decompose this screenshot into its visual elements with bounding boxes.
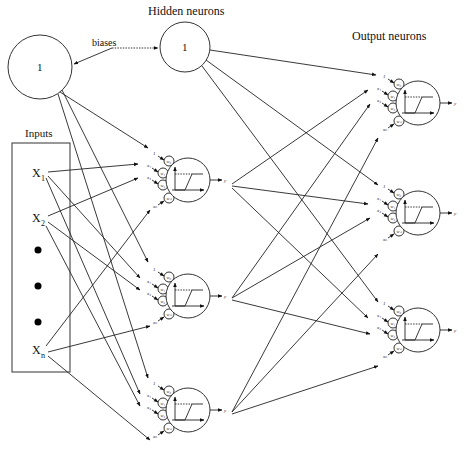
weight-label: w₀: [167, 275, 172, 280]
weight-label: w₀: [397, 309, 402, 314]
bias-arrow-left: [74, 48, 112, 64]
svg-text:X: X: [32, 166, 41, 180]
svg-text:X: X: [32, 211, 41, 225]
weight-label: w₂: [161, 299, 166, 304]
output-neuron-1: w₀1w₁x₁w₂x₂wₙxₙy: [376, 74, 457, 132]
neuron-input-label: x₁: [146, 163, 151, 168]
neuron-body: [166, 274, 210, 318]
neuron-input-label: x₁: [376, 196, 381, 201]
neuron-body: [396, 191, 440, 235]
weight-label: w₂: [391, 333, 396, 338]
svg-text:X: X: [32, 343, 41, 357]
svg-text:2: 2: [41, 219, 45, 228]
neuron-input-label: 1: [153, 381, 156, 386]
neuron-input-label: x₂: [376, 208, 381, 213]
output-neuron-2: w₀1w₁x₁w₂x₂wₙxₙy: [376, 184, 457, 242]
neuron-input-label: 1: [383, 301, 386, 306]
neuron-input-label: xₙ: [382, 127, 388, 132]
output-neuron-3: w₀1w₁x₁w₂x₂wₙxₙy: [376, 301, 457, 359]
weight-label: w₁: [161, 171, 166, 176]
neuron-input-label: xₙ: [152, 204, 158, 209]
output-neurons-title: Output neurons: [352, 29, 427, 43]
neuron-body: [396, 81, 440, 125]
weight-label: wₙ: [167, 312, 172, 317]
ellipsis-dot: [35, 319, 42, 326]
weight-label: w₂: [391, 216, 396, 221]
neuron-input-label: x₁: [146, 279, 151, 284]
weight-label: wₙ: [397, 346, 402, 351]
hidden-to-output-connections: [232, 90, 378, 414]
weight-label: w₀: [167, 159, 172, 164]
hidden-bias-value: 1: [182, 41, 188, 53]
neuron-input-label: 1: [383, 74, 386, 79]
neuron-body: [166, 158, 210, 202]
output-label: y: [453, 211, 457, 216]
weight-label: w₂: [391, 106, 396, 111]
neuron-input-label: xₙ: [382, 354, 388, 359]
neuron-input-label: xₙ: [152, 320, 158, 325]
ellipsis-dot: [35, 247, 42, 254]
weight-label: w₁: [161, 287, 166, 292]
neuron-body: [396, 308, 440, 352]
biases-label: biases: [92, 37, 117, 48]
weight-label: w₂: [161, 183, 166, 188]
weight-label: w₀: [397, 82, 402, 87]
neuron-input-label: x₁: [376, 313, 381, 318]
weight-label: w₁: [161, 401, 166, 406]
weight-label: w₀: [167, 389, 172, 394]
weight-label: wₙ: [397, 229, 402, 234]
hidden-neuron-1: w₀1w₁x₁w₂x₂wₙxₙy: [146, 151, 227, 209]
output-label: y: [223, 408, 227, 413]
hidden-neuron-2: w₀1w₁x₁w₂x₂wₙxₙy: [146, 267, 227, 325]
neuron-input-label: xₙ: [152, 434, 158, 439]
weight-label: wₙ: [167, 426, 172, 431]
neuron-input-label: x₁: [146, 393, 151, 398]
neuron-input-label: x₂: [146, 291, 151, 296]
neuron-input-label: x₂: [376, 98, 381, 103]
weight-label: w₂: [161, 413, 166, 418]
weight-label: wₙ: [397, 119, 402, 124]
output-label: y: [223, 294, 227, 299]
neural-network-diagram: Hidden neurons Output neurons biases Inp…: [0, 0, 469, 464]
input-x2: X2: [32, 211, 45, 228]
neuron-input-label: 1: [153, 151, 156, 156]
svg-text:1: 1: [41, 174, 45, 183]
neuron-input-label: x₂: [146, 405, 151, 410]
weight-label: w₁: [391, 94, 396, 99]
output-label: y: [223, 178, 227, 183]
neuron-input-label: 1: [383, 184, 386, 189]
neuron-input-label: x₂: [376, 325, 381, 330]
weight-label: w₁: [391, 321, 396, 326]
neuron-input-label: x₂: [146, 175, 151, 180]
weight-label: w₁: [391, 204, 396, 209]
output-label: y: [453, 328, 457, 333]
neuron-body: [166, 388, 210, 432]
output-label: y: [453, 101, 457, 106]
inputs-label: Inputs: [25, 127, 53, 139]
svg-text:n: n: [41, 351, 45, 360]
hidden-neurons-title: Hidden neurons: [148, 4, 225, 18]
ellipsis-dot: [35, 283, 42, 290]
hidden-neuron-3: w₀1w₁x₁w₂x₂wₙxₙy: [146, 381, 227, 439]
input-x1: X1: [32, 166, 45, 183]
neuron-input-label: 1: [153, 267, 156, 272]
input-xn: Xn: [32, 343, 45, 360]
input-bias-value: 1: [37, 61, 43, 73]
weight-label: w₀: [397, 192, 402, 197]
weight-label: wₙ: [167, 196, 172, 201]
neuron-input-label: xₙ: [382, 237, 388, 242]
neuron-input-label: x₁: [376, 86, 381, 91]
